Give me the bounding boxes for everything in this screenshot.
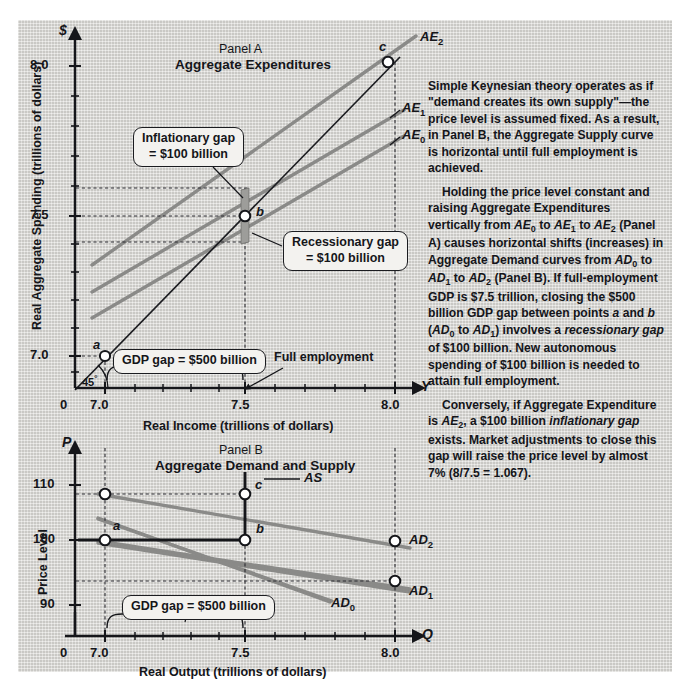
panel-a-curve-label-ae2: AE2 (420, 30, 443, 48)
panel-a-point-a (100, 351, 110, 361)
panel-b-xtick-70: 7.0 (90, 646, 109, 661)
curve-ad1 (98, 541, 410, 589)
panel-b-point-label-c: c (255, 478, 262, 493)
panel-b-ytick-100: 100 (33, 532, 55, 547)
panel-a-angle-arc (98, 365, 108, 388)
panel-b-y-axis-symbol: P (62, 434, 71, 450)
notes-paragraph-3: Conversely, if Aggregate Expenditure is … (428, 397, 666, 481)
panel-a-kicker: Panel A (219, 42, 262, 56)
panel-a-xtick-70: 7.0 (90, 398, 109, 413)
recessionary-gap-line1: Recessionary gap (292, 235, 399, 251)
explanatory-notes: Simple Keynesian theory operates as if "… (428, 78, 666, 488)
panel-b-point-c (240, 489, 251, 500)
recessionary-gap-line2: = $100 billion (292, 251, 399, 267)
panel-b-curve-label-ad0: AD0 (331, 596, 355, 614)
panel-b-point-a (100, 535, 111, 546)
panel-b-x-axis-symbol: Q (422, 626, 433, 642)
panel-a-xtick-80: 8.0 (381, 398, 400, 413)
panel-b-curve-label-ad2: AD2 (409, 533, 433, 551)
panel-b-xtick-0: 0 (60, 646, 67, 661)
notes-paragraph-1: Simple Keynesian theory operates as if "… (428, 78, 666, 177)
panel-b-gdp-gap-callout: GDP gap = $500 billion (122, 595, 275, 620)
inflationary-gap-line2: = $100 billion (142, 147, 235, 163)
recessionary-callout-leader (252, 233, 282, 246)
notes-paragraph-2: Holding the price level constant and rai… (428, 184, 666, 390)
inflationary-gap-line1: Inflationary gap (142, 131, 235, 147)
panel-a-point-label-c: c (379, 40, 386, 55)
panel-a-ae-curves (92, 36, 416, 318)
panel-b-point-label-b: b (256, 522, 264, 537)
panel-b-ytick-110: 110 (33, 477, 55, 492)
panel-b-xtick-80: 8.0 (381, 646, 400, 661)
angle-value: 45 (82, 376, 94, 388)
panel-a-ytick-8: 8.0 (30, 58, 49, 73)
panel-a-angle-label: 45° (82, 374, 97, 388)
panel-a-point-b (240, 211, 251, 222)
panel-a-curve-label-ae1: AE1 (402, 101, 425, 119)
panel-a-x-axis-title: Real Income (trillions of dollars) (143, 419, 333, 433)
panel-b-kicker: Panel B (219, 443, 263, 457)
forty-five-degree-line (75, 57, 400, 390)
panel-a-plot (69, 36, 416, 394)
panel-a-point-c (383, 57, 394, 68)
panel-a-xtick-75: 7.5 (231, 398, 250, 413)
panel-b-xtick-75: 7.5 (231, 646, 250, 661)
panel-b-point-label-a: a (113, 519, 120, 534)
panel-a-xtick-0: 0 (60, 398, 67, 413)
panel-b-x-axis-title: Real Output (trillions of dollars) (139, 665, 327, 679)
panel-b-ad-curves-true (98, 519, 410, 601)
panel-a-y-axis-title: Real Aggregate Spending (trillions of do… (30, 62, 44, 330)
panel-a-y-axis-symbol: $ (59, 22, 67, 38)
panel-b-ytick-90: 90 (40, 597, 55, 612)
panel-a-gdp-gap-callout: GDP gap = $500 billion (113, 349, 266, 374)
panel-b-curve-label-as: AS (304, 471, 322, 486)
full-employment-label: Full employment (274, 350, 373, 364)
figure-root: $ Real Aggregate Spending (trillions of … (0, 0, 684, 699)
panel-b-title: Aggregate Demand and Supply (155, 458, 355, 474)
panel-b-point-ad2-at-8 (390, 536, 401, 547)
panel-b-curve-label-ad1: AD1 (409, 584, 433, 602)
angle-degree-sign: ° (94, 374, 97, 383)
panel-a-point-label-b: b (256, 205, 264, 220)
panel-a-ytick-75: 7.5 (30, 208, 49, 223)
panel-a-title: Aggregate Expenditures (175, 57, 331, 73)
panel-b-point-ad2-at-7 (100, 489, 111, 500)
panel-a-point-label-a: a (93, 338, 100, 353)
panel-b-point-b (240, 535, 251, 546)
panel-a-ytick-7: 7.0 (30, 348, 49, 363)
inflationary-gap-callout: Inflationary gap = $100 billion (133, 127, 244, 167)
panel-a-curve-label-ae0: AE0 (402, 128, 425, 146)
inflationary-callout-leader (213, 167, 243, 198)
recessionary-gap-callout: Recessionary gap = $100 billion (283, 231, 408, 271)
panel-b-point-ad1-at-8 (390, 576, 401, 587)
